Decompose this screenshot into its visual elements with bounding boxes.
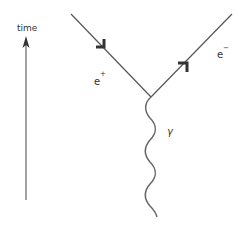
positron-line: e + <box>71 14 151 97</box>
time-label: time <box>17 23 38 33</box>
photon-line: γ <box>146 97 175 217</box>
time-axis: time <box>17 23 38 200</box>
positron-arrow-icon <box>96 39 104 47</box>
electron-charge: − <box>223 44 229 52</box>
feynman-diagram: time e + e − γ <box>0 0 240 227</box>
photon-label: γ <box>167 126 174 137</box>
positron-charge: + <box>100 70 106 78</box>
electron-line: e − <box>151 14 232 97</box>
